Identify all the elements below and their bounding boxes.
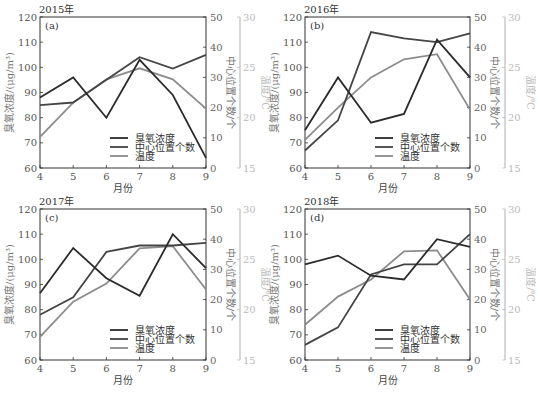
- chart-panel-b: 2016年(b)60708090100110120010203040501520…: [268, 3, 537, 194]
- x-tick-label: 5: [70, 171, 76, 182]
- temperature-tick-label: 25: [243, 62, 256, 73]
- chart-panel-a: 2015年(a)60708090100110120010203040501520…: [3, 3, 272, 194]
- legend-label: 温度: [400, 150, 420, 162]
- y-tick-label: 100: [18, 62, 37, 73]
- left-axis-title: 臭氧浓度/(μg/m³): [3, 244, 15, 325]
- temperature-tick-label: 25: [508, 62, 521, 73]
- x-tick-label: 8: [170, 171, 176, 182]
- y-tick-label: 90: [289, 279, 302, 290]
- year-title: 2018年: [304, 195, 339, 207]
- temperature-tick-label: 15: [243, 163, 256, 174]
- temperature-tick-label: 20: [508, 112, 521, 123]
- right-tick-label: 30: [210, 72, 223, 83]
- temperature-tick-label: 15: [508, 355, 521, 366]
- temperature-tick-label: 30: [243, 204, 256, 215]
- y-tick-label: 70: [24, 137, 37, 148]
- right-tick-label: 10: [474, 324, 487, 335]
- panel-label: (c): [45, 212, 59, 223]
- panel-label: (d): [310, 212, 324, 223]
- y-tick-label: 70: [289, 137, 302, 148]
- x-axis-title: 月份: [113, 375, 133, 386]
- temperature-tick-label: 30: [243, 12, 256, 23]
- right-tick-label: 10: [210, 324, 223, 335]
- temperature-line: [305, 250, 470, 324]
- year-title: 2016年: [304, 3, 339, 15]
- y-tick-label: 80: [24, 112, 37, 123]
- year-title: 2017年: [39, 195, 74, 207]
- y-tick-label: 60: [289, 355, 302, 366]
- chart-panel-c: 2017年(c)60708090100110120010203040501520…: [3, 195, 272, 386]
- y-tick-label: 120: [18, 204, 37, 215]
- x-axis-title: 月份: [378, 183, 398, 194]
- right-tick-label: 20: [210, 294, 223, 305]
- left-axis-title: 臭氧浓度/(μg/m³): [268, 244, 280, 325]
- panel-label: (b): [310, 20, 324, 31]
- center-count-line: [40, 55, 206, 105]
- x-tick-label: 8: [170, 363, 176, 374]
- y-tick-label: 120: [283, 204, 302, 215]
- right-axis-title: 中心位置个数/个: [489, 56, 501, 129]
- x-tick-label: 7: [136, 171, 142, 182]
- figure-four-panels: 2015年(a)60708090100110120010203040501520…: [0, 0, 540, 397]
- right-tick-label: 20: [474, 102, 487, 113]
- temperature-tick-label: 20: [243, 304, 256, 315]
- right-tick-label: 50: [474, 204, 487, 215]
- right-tick-label: 40: [210, 234, 223, 245]
- x-tick-label: 5: [335, 171, 341, 182]
- right-tick-label: 40: [474, 234, 487, 245]
- x-tick-label: 7: [401, 363, 407, 374]
- y-tick-label: 100: [283, 62, 302, 73]
- y-tick-label: 80: [24, 304, 37, 315]
- x-tick-label: 4: [37, 363, 43, 374]
- right-axis-title: 中心位置个数/个: [225, 56, 237, 129]
- right-tick-label: 20: [474, 294, 487, 305]
- y-tick-label: 70: [289, 329, 302, 340]
- y-tick-label: 60: [24, 355, 37, 366]
- right-tick-label: 40: [474, 42, 487, 53]
- x-axis-title: 月份: [113, 183, 133, 194]
- panel-label: (a): [45, 20, 59, 31]
- left-axis-title: 臭氧浓度/(μg/m³): [3, 52, 15, 133]
- center-count-line: [40, 243, 206, 315]
- right-tick-label: 0: [474, 163, 480, 174]
- x-tick-label: 7: [401, 171, 407, 182]
- x-tick-label: 6: [103, 171, 109, 182]
- y-tick-label: 60: [24, 163, 37, 174]
- x-tick-label: 6: [368, 171, 374, 182]
- x-tick-label: 7: [136, 363, 142, 374]
- legend-label: 温度: [400, 342, 420, 354]
- right-axis-title: 中心位置个数/个: [489, 248, 501, 321]
- right-tick-label: 0: [210, 163, 216, 174]
- right-tick-label: 50: [210, 12, 223, 23]
- ozone-line: [305, 239, 470, 279]
- x-tick-label: 4: [302, 171, 308, 182]
- x-tick-label: 5: [70, 363, 76, 374]
- y-tick-label: 110: [18, 229, 37, 240]
- temperature-tick-label: 25: [243, 254, 256, 265]
- x-tick-label: 5: [335, 363, 341, 374]
- x-tick-label: 9: [467, 363, 473, 374]
- legend-label: 温度: [135, 342, 155, 354]
- y-tick-label: 80: [289, 304, 302, 315]
- right-tick-label: 0: [210, 355, 216, 366]
- y-tick-label: 110: [18, 37, 37, 48]
- y-tick-label: 80: [289, 112, 302, 123]
- temperature-tick-label: 20: [508, 304, 521, 315]
- right-tick-label: 50: [210, 204, 223, 215]
- y-tick-label: 90: [289, 87, 302, 98]
- y-tick-label: 100: [18, 254, 37, 265]
- center-count-line: [305, 234, 470, 345]
- right-tick-label: 40: [210, 42, 223, 53]
- temperature-tick-label: 20: [243, 112, 256, 123]
- right-tick-label: 30: [210, 264, 223, 275]
- temperature-tick-label: 30: [508, 12, 521, 23]
- temperature-tick-label: 15: [508, 163, 521, 174]
- x-tick-label: 4: [37, 171, 43, 182]
- x-tick-label: 6: [368, 363, 374, 374]
- chart-panel-d: 2018年(d)60708090100110120010203040501520…: [268, 195, 537, 386]
- right-tick-label: 0: [474, 355, 480, 366]
- right-tick-label: 10: [474, 132, 487, 143]
- y-tick-label: 100: [283, 254, 302, 265]
- year-title: 2015年: [39, 3, 74, 15]
- temperature-tick-label: 25: [508, 254, 521, 265]
